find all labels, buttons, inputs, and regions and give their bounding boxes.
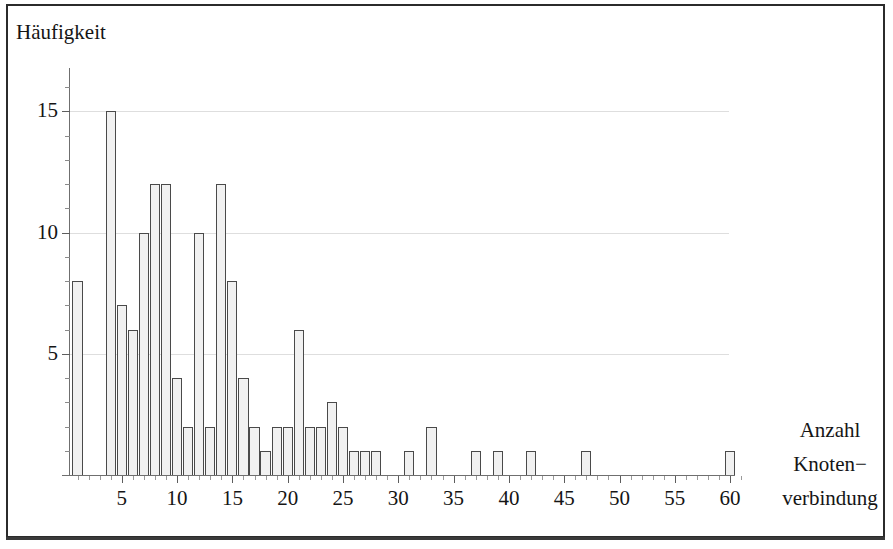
x-axis-major-tick xyxy=(620,476,621,483)
histogram-bar xyxy=(349,451,359,475)
x-axis-major-tick xyxy=(122,476,123,483)
y-axis-major-tick xyxy=(62,111,70,112)
histogram-bar xyxy=(272,427,282,476)
y-axis-tick-label: 10 xyxy=(10,222,58,243)
histogram-bar xyxy=(725,451,735,475)
x-axis-major-tick xyxy=(730,476,731,483)
x-axis-minor-tick xyxy=(586,476,587,480)
histogram-bar xyxy=(106,111,116,475)
x-axis-tick-label: 45 xyxy=(541,486,587,510)
histogram-bar xyxy=(305,427,315,476)
histogram-bar xyxy=(139,233,149,476)
histogram-bar xyxy=(327,402,337,475)
histogram-bar xyxy=(227,281,237,475)
histogram-bar xyxy=(260,451,270,475)
x-axis-tick-label: 30 xyxy=(375,486,421,510)
x-axis-tick-label: 20 xyxy=(265,486,311,510)
histogram-bar xyxy=(371,451,381,475)
y-axis-minor-tick xyxy=(65,184,70,185)
x-axis-minor-tick xyxy=(697,476,698,480)
x-axis-minor-tick xyxy=(487,476,488,480)
histogram-bar xyxy=(581,451,591,475)
y-axis-minor-tick xyxy=(65,257,70,258)
x-axis-minor-tick xyxy=(575,476,576,480)
histogram-bar xyxy=(150,184,160,475)
x-axis-major-tick xyxy=(232,476,233,483)
x-axis-minor-tick xyxy=(210,476,211,480)
x-axis-major-tick xyxy=(343,476,344,483)
x-axis-minor-tick xyxy=(465,476,466,480)
y-axis-line xyxy=(69,68,70,476)
histogram-bar xyxy=(128,330,138,476)
x-axis-major-tick xyxy=(288,476,289,483)
x-axis-tick-label: 10 xyxy=(154,486,200,510)
histogram-plot: Häufigkeit 15105 51015202530354045505560… xyxy=(0,0,893,549)
x-axis-title: Anzahl Knoten− verbindung xyxy=(772,413,888,515)
x-axis-minor-tick xyxy=(708,476,709,480)
x-axis-major-tick xyxy=(675,476,676,483)
y-axis-tick-label-text: 5 xyxy=(18,343,58,364)
y-axis-minor-tick xyxy=(65,305,70,306)
x-axis-tick-label: 25 xyxy=(320,486,366,510)
x-axis-tick-label: 5 xyxy=(99,486,145,510)
x-axis-minor-tick xyxy=(89,476,90,480)
y-axis-minor-tick xyxy=(65,330,70,331)
x-axis-minor-tick xyxy=(387,476,388,480)
x-axis-minor-tick xyxy=(133,476,134,480)
x-axis-minor-tick xyxy=(642,476,643,480)
x-axis-major-tick xyxy=(564,476,565,483)
x-axis-title-line-3: verbindung xyxy=(772,481,888,515)
histogram-bar xyxy=(117,305,127,475)
histogram-bar xyxy=(426,427,436,476)
x-axis-minor-tick xyxy=(409,476,410,480)
y-axis-minor-tick xyxy=(65,281,70,282)
gridline xyxy=(69,111,729,112)
x-axis-minor-tick xyxy=(111,476,112,480)
x-axis-minor-tick xyxy=(686,476,687,480)
histogram-bar xyxy=(194,233,204,476)
x-axis-minor-tick xyxy=(608,476,609,480)
histogram-bar xyxy=(172,378,182,475)
x-axis-title-line-1: Anzahl xyxy=(772,413,888,447)
y-axis-minor-tick xyxy=(65,160,70,161)
x-axis-minor-tick xyxy=(354,476,355,480)
y-axis-tick-label: 15 xyxy=(10,100,58,121)
x-axis-minor-tick xyxy=(631,476,632,480)
histogram-bar xyxy=(316,427,326,476)
x-axis-minor-tick xyxy=(498,476,499,480)
x-axis-tick-label: 15 xyxy=(209,486,255,510)
x-axis-minor-tick xyxy=(78,476,79,480)
histogram-bar xyxy=(493,451,503,475)
y-axis-minor-tick xyxy=(65,87,70,88)
x-axis-minor-tick xyxy=(365,476,366,480)
histogram-bar xyxy=(238,378,248,475)
x-axis-minor-tick xyxy=(166,476,167,480)
histogram-bar xyxy=(205,427,215,476)
y-axis-minor-tick xyxy=(65,427,70,428)
x-axis-minor-tick xyxy=(443,476,444,480)
x-axis-minor-tick xyxy=(741,476,742,480)
histogram-bar xyxy=(283,427,293,476)
y-axis-title: Häufigkeit xyxy=(16,20,106,44)
x-axis-minor-tick xyxy=(155,476,156,480)
histogram-bar xyxy=(471,451,481,475)
x-axis-minor-tick xyxy=(221,476,222,480)
x-axis-tick-label: 35 xyxy=(431,486,477,510)
y-axis-tick-label-text: 15 xyxy=(18,100,58,121)
x-axis-minor-tick xyxy=(243,476,244,480)
histogram-bar xyxy=(161,184,171,475)
x-axis-minor-tick xyxy=(266,476,267,480)
x-axis-minor-tick xyxy=(299,476,300,480)
histogram-bar xyxy=(72,281,82,475)
x-axis-minor-tick xyxy=(653,476,654,480)
x-axis-tick-label: 60 xyxy=(707,486,753,510)
y-axis-tick-label: 5 xyxy=(10,343,58,364)
x-axis-minor-tick xyxy=(310,476,311,480)
x-axis-minor-tick xyxy=(476,476,477,480)
y-axis-major-tick xyxy=(62,233,70,234)
x-axis-minor-tick xyxy=(188,476,189,480)
x-axis-minor-tick xyxy=(321,476,322,480)
x-axis-minor-tick xyxy=(542,476,543,480)
x-axis-major-tick xyxy=(177,476,178,483)
y-axis-minor-tick xyxy=(65,451,70,452)
